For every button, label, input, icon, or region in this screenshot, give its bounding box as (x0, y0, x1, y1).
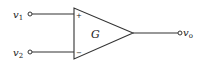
gain-label: G (91, 28, 100, 41)
input-1-label: v1 (13, 9, 23, 22)
output: vo (133, 27, 193, 40)
output-label: vo (183, 27, 193, 40)
amplifier-triangle (74, 8, 133, 59)
output-terminal (178, 31, 182, 35)
input-1: v1 (13, 9, 74, 22)
plus-sign: + (76, 12, 82, 20)
input-2: v2 (13, 47, 74, 60)
input-1-terminal (28, 12, 32, 16)
input-2-terminal (28, 50, 32, 54)
input-2-label: v2 (13, 47, 23, 60)
minus-sign: − (76, 49, 82, 57)
op-amp-diagram: v1 v2 + − G vo (0, 0, 205, 65)
